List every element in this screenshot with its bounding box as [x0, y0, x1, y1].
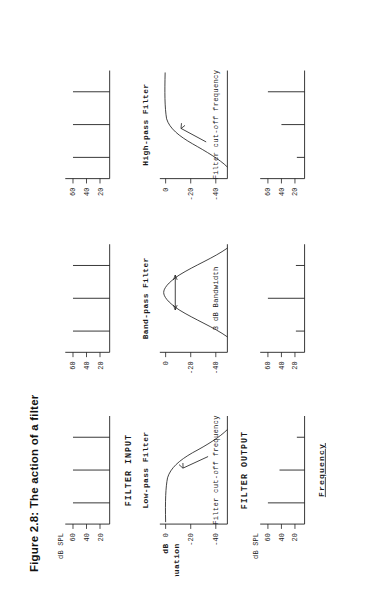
tick-label: 60: [69, 533, 77, 542]
axis-title-attenuation: attenuation: [172, 543, 181, 576]
tick-label: 60: [69, 361, 77, 370]
axis-title: dB SPL: [252, 533, 260, 559]
tick-label: -40: [212, 187, 220, 200]
section-label-filter-output: FILTER OUTPUT: [240, 431, 249, 509]
panel-output-low-pass: 60 40 20 dB SPL: [252, 416, 304, 559]
filter-title-low-pass: Low-pass Filter: [141, 432, 150, 509]
tick-label: 60: [69, 187, 77, 196]
annotation-high-pass: Filter cut-off frequency: [212, 69, 220, 179]
axis-title: dB SPL: [57, 533, 65, 559]
tick-label: -20: [187, 533, 195, 546]
tick-label: 20: [291, 187, 299, 196]
figure-canvas: 60 40 20 dB SPL 60 40 20: [38, 36, 328, 576]
panel-response-high-pass: 0 -20 -40 High-pass Filter Filter cut-of…: [141, 69, 227, 200]
panel-input-band-pass: 60 40 20: [65, 244, 109, 369]
tick-label: 40: [278, 361, 286, 370]
panel-input-high-pass: 60 40 20: [65, 71, 109, 196]
panel-input-low-pass: 60 40 20 dB SPL: [57, 416, 109, 559]
axis-label-frequency: Frequency: [317, 443, 326, 497]
tick-label: -20: [187, 361, 195, 374]
panel-output-high-pass: 60 40 20: [260, 71, 304, 196]
panel-response-low-pass: 0 -20 -40 dB attenuation Low-pass Filter…: [141, 415, 227, 576]
annotation-low-pass-text: Filter cut-off frequency: [212, 415, 220, 525]
tick-label: 60: [264, 533, 272, 542]
tick-label: 0: [162, 361, 170, 365]
filter-title-high-pass: High-pass Filter: [141, 84, 150, 166]
tick-label: 40: [83, 361, 91, 370]
axis-title-db: dB: [161, 543, 170, 553]
tick-label: -20: [187, 187, 195, 200]
tick-label: 60: [264, 187, 272, 196]
tick-label: 0: [162, 187, 170, 191]
tick-label: 20: [291, 361, 299, 370]
tick-label: 60: [264, 361, 272, 370]
section-label-filter-input: FILTER INPUT: [124, 434, 133, 506]
tick-label: 0: [162, 533, 170, 537]
tick-label: 20: [291, 533, 299, 542]
tick-label: -40: [212, 533, 220, 546]
annotation-band-pass: 3 dB Bandwidth: [212, 266, 220, 330]
tick-label: 20: [97, 533, 105, 542]
row-filter-response: 0 -20 -40 dB attenuation Low-pass Filter…: [141, 69, 227, 576]
tick-label: 20: [97, 361, 105, 370]
filter-title-band-pass: Band-pass Filter: [141, 257, 150, 339]
tick-label: 40: [278, 533, 286, 542]
panel-output-band-pass: 60 40 20: [260, 244, 304, 369]
panel-response-band-pass: 0 -20 -40 Band-pass Filter 3 dB Bandwidt…: [141, 244, 227, 374]
tick-label: 40: [83, 187, 91, 196]
row-filter-input: 60 40 20 dB SPL 60 40 20: [57, 71, 133, 559]
filter-action-figure: 60 40 20 dB SPL 60 40 20: [38, 36, 328, 576]
row-filter-output: 60 40 20 dB SPL 60 40 20: [240, 71, 326, 559]
figure-rotated-wrapper: 60 40 20 dB SPL 60 40 20: [38, 36, 328, 576]
tick-label: 40: [278, 187, 286, 196]
tick-label: -40: [212, 361, 220, 374]
tick-label: 40: [83, 533, 91, 542]
tick-label: 20: [97, 187, 105, 196]
